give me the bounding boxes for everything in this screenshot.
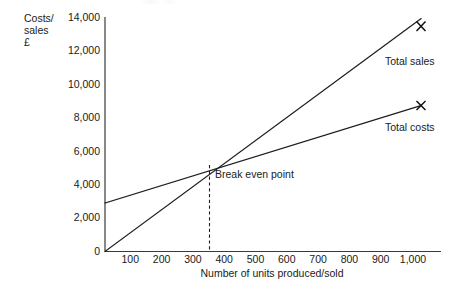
total-sales-line [105, 19, 421, 252]
x-tick-label-300: 300 [184, 253, 202, 265]
y-axis-title-line-3: £ [24, 36, 30, 48]
x-axis-title: Number of units produced/sold [201, 267, 344, 279]
total-costs-end-marker-icon [417, 101, 426, 110]
x-tick-label-800: 800 [341, 253, 359, 265]
chart-canvas: 14,000 12,000 10,000 8,000 6,000 4,000 2… [0, 0, 455, 292]
x-axis-tick-labels: 100 200 300 400 500 600 700 800 900 1,00… [122, 253, 427, 265]
total-costs-line [105, 106, 421, 204]
y-tick-label-6000: 6,000 [74, 145, 100, 157]
y-axis-title-line-1: Costs/ [24, 12, 54, 24]
y-tick-label-0: 0 [94, 245, 100, 257]
x-tick-label-500: 500 [247, 253, 265, 265]
total-costs-label: Total costs [385, 121, 435, 133]
x-tick-label-1000: 1,000 [400, 253, 426, 265]
y-tick-label-10000: 10,000 [68, 78, 100, 90]
y-tick-label-2000: 2,000 [74, 211, 100, 223]
y-tick-label-4000: 4,000 [74, 178, 100, 190]
y-tick-label-14000: 14,000 [68, 11, 100, 23]
y-axis-tick-labels: 14,000 12,000 10,000 8,000 6,000 4,000 2… [68, 11, 100, 257]
y-tick-label-12000: 12,000 [68, 44, 100, 56]
total-sales-label: Total sales [385, 55, 435, 67]
x-tick-label-400: 400 [215, 253, 233, 265]
y-axis-title-line-2: sales [24, 24, 49, 36]
x-tick-label-900: 900 [372, 253, 390, 265]
x-tick-label-200: 200 [153, 253, 171, 265]
x-tick-label-600: 600 [278, 253, 296, 265]
break-even-chart-figure: 14,000 12,000 10,000 8,000 6,000 4,000 2… [0, 0, 455, 292]
total-sales-end-marker-icon [417, 22, 426, 32]
break-even-point-label: Break even point [215, 168, 294, 180]
x-tick-label-100: 100 [122, 253, 140, 265]
y-tick-label-8000: 8,000 [74, 111, 100, 123]
y-axis-title: Costs/ sales £ [24, 12, 54, 48]
axes-group [105, 17, 441, 252]
x-tick-label-700: 700 [309, 253, 327, 265]
